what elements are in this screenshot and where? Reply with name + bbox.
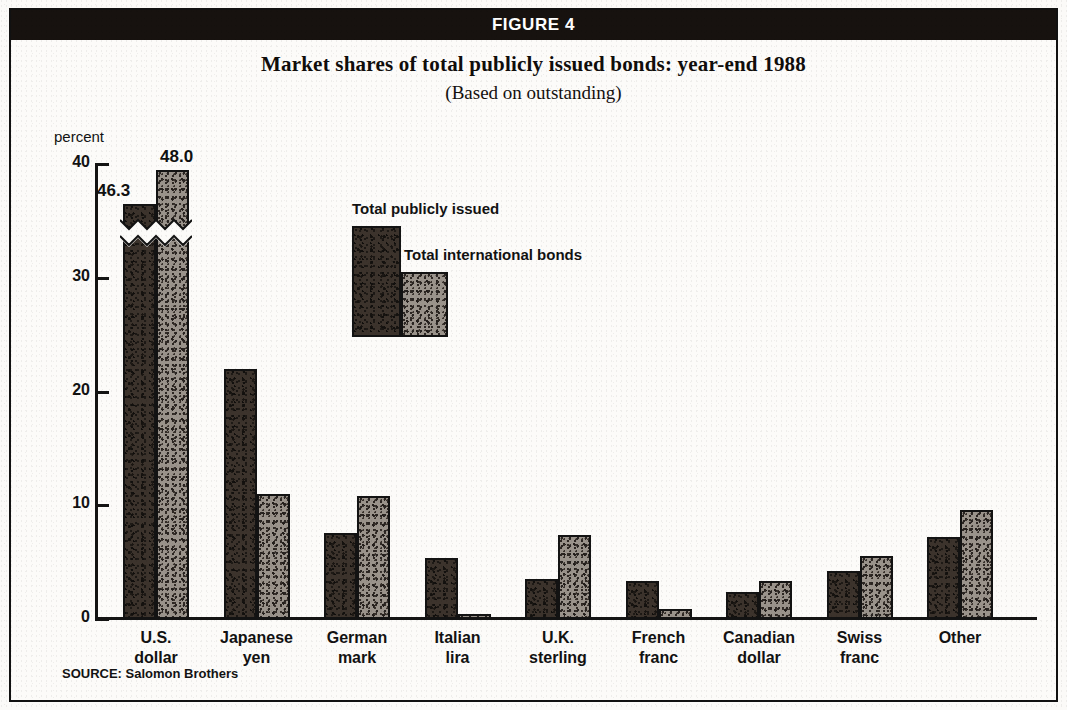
bar-dark-french-franc (626, 581, 659, 619)
bar-dark-u-s-dollar (123, 204, 156, 619)
bar-dark-german-mark (324, 533, 357, 619)
y-axis-tick-30 (95, 277, 109, 280)
axis-cap-bottom (95, 618, 107, 621)
source-note: SOURCE: Salomon Brothers (62, 666, 238, 681)
bar-light-canadian-dollar (759, 581, 792, 619)
y-axis-tick-10 (95, 504, 109, 507)
y-axis-tick-20 (95, 391, 109, 394)
bar-dark-swiss-franc (827, 571, 860, 619)
bar-light-italian-lira (458, 614, 491, 619)
y-axis-label-10: 10 (44, 494, 90, 512)
plot-area: percent 010203040U.S.dollarJapaneseyenGe… (0, 0, 1067, 710)
bar-dark-other (927, 537, 960, 619)
bar-dark-italian-lira (425, 558, 458, 619)
bar-dark-u-k-sterling (525, 579, 558, 619)
legend-label-international-bonds: Total international bonds (404, 246, 582, 263)
legend-label-publicly-issued: Total publicly issued (352, 200, 499, 217)
y-axis-unit-label: percent (54, 128, 104, 145)
bar-light-japanese-yen (257, 494, 290, 619)
bar-light-u-s-dollar (156, 170, 189, 619)
y-axis-label-40: 40 (44, 153, 90, 171)
legend-swatch-publicly-issued (352, 226, 401, 337)
bar-value-label-publicly-issued: 46.3 (97, 181, 130, 201)
bar-light-u-k-sterling (558, 535, 591, 619)
bar-light-german-mark (357, 496, 390, 619)
bar-dark-japanese-yen (224, 369, 257, 619)
y-axis-label-0: 0 (44, 608, 90, 626)
bar-dark-canadian-dollar (726, 592, 759, 619)
legend-swatch-international-bonds (401, 272, 448, 337)
y-axis-label-30: 30 (44, 267, 90, 285)
x-axis-label-other: Other (885, 628, 1035, 648)
figure-root: FIGURE 4 Market shares of total publicly… (0, 0, 1067, 710)
bar-light-other (960, 510, 993, 619)
axis-cap-top (95, 163, 107, 166)
y-axis-label-20: 20 (44, 381, 90, 399)
bar-value-label-international: 48.0 (160, 147, 193, 167)
bar-light-french-franc (659, 609, 692, 619)
bar-light-swiss-franc (860, 556, 893, 619)
